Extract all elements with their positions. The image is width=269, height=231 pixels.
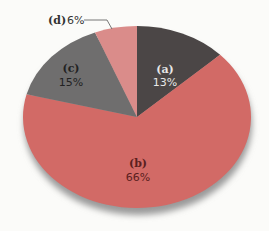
label-a-value: 13% (153, 76, 177, 89)
label-d-key: (d) (48, 14, 66, 27)
label-a-key: (a) (156, 63, 174, 76)
label-c-key: (c) (62, 62, 79, 75)
label-d-value: 6% (67, 14, 84, 27)
label-b-value: 66% (126, 171, 150, 184)
label-c-value: 15% (59, 76, 83, 89)
leader-line (84, 20, 112, 29)
pie-chart: (d) 6% (a) 13% (c) 15% (b) 66% (0, 0, 269, 231)
label-b-key: (b) (129, 157, 147, 170)
